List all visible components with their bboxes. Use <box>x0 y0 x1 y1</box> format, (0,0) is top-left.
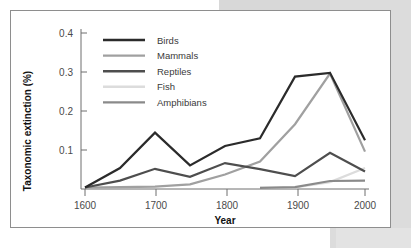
y-axis-title: Taxonomic extinction (%) <box>22 71 33 191</box>
legend-label-birds: Birds <box>157 35 179 46</box>
x-tick-labels: 1600 1700 1800 1900 2000 <box>74 200 377 211</box>
y-tick-label: 0.4 <box>59 28 73 39</box>
x-tick-label: 1800 <box>216 200 239 211</box>
legend-label-fish: Fish <box>157 81 175 92</box>
series-line-birds <box>85 73 365 188</box>
x-axis-title: Year <box>214 215 235 226</box>
x-tick-label: 1700 <box>145 200 168 211</box>
x-tick-label: 2000 <box>354 200 377 211</box>
chart-series-group <box>85 73 365 188</box>
chart-plot-area: Taxonomic extinction (%) 0.4 0.3 0.2 0.1 <box>11 11 392 229</box>
line-chart-svg: Taxonomic extinction (%) 0.4 0.3 0.2 0.1 <box>11 11 392 229</box>
y-tick-label: 0.1 <box>59 145 73 156</box>
figure-card: Taxonomic extinction (%) 0.4 0.3 0.2 0.1 <box>10 10 391 228</box>
legend-label-reptiles: Reptiles <box>157 66 192 77</box>
background-band-right-inner <box>336 228 411 248</box>
y-tick-label: 0.2 <box>59 106 73 117</box>
y-axis-ticks <box>81 33 87 150</box>
background-panel-lower <box>0 228 330 248</box>
chart-legend: BirdsMammalsReptilesFishAmphibians <box>103 35 207 108</box>
x-tick-label: 1600 <box>74 200 97 211</box>
series-line-mammals <box>85 74 365 188</box>
legend-label-mammals: Mammals <box>157 50 198 61</box>
y-tick-labels: 0.4 0.3 0.2 0.1 <box>59 28 73 156</box>
x-axis-ticks <box>85 189 365 196</box>
y-tick-label: 0.3 <box>59 67 73 78</box>
series-line-amphibians <box>260 181 365 188</box>
legend-label-amphibians: Amphibians <box>157 97 207 108</box>
x-tick-label: 1900 <box>287 200 310 211</box>
